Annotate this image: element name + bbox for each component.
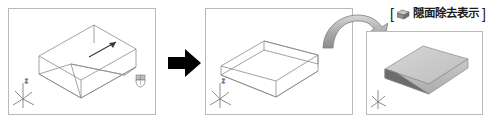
inner-wedge-wireframe (39, 64, 136, 98)
ucs-axis-tripod-icon: Z (13, 79, 34, 108)
caption-open-bracket: [ (390, 7, 394, 21)
wireframe-box (39, 25, 136, 98)
viewport-panel-3[interactable] (366, 31, 483, 115)
caption-hidden-line-removal: [ 隠面除去表示 ] (390, 4, 486, 24)
figure-canvas: Z (0, 0, 492, 126)
svg-text:Z: Z (222, 79, 225, 84)
panel-3-drawing (367, 32, 482, 114)
caption-text: 隠面除去表示 (413, 8, 479, 20)
wedge-wireframe (221, 41, 318, 97)
mouse-cursor-icon (136, 75, 145, 87)
viewport-panel-1[interactable]: Z (8, 8, 156, 115)
page-edge-mark (5, 119, 17, 126)
shaded-box-icon (397, 9, 410, 20)
shaded-wedge-solid (385, 46, 468, 94)
ucs-axis-tripod-icon (371, 90, 386, 109)
caption-close-bracket: ] (482, 7, 486, 21)
ucs-axis-tripod-icon: Z (210, 79, 231, 108)
pick-arrow-icon (89, 42, 116, 57)
svg-text:Z: Z (25, 79, 28, 84)
step-right-arrow (168, 48, 202, 78)
panel-1-drawing: Z (9, 9, 155, 114)
